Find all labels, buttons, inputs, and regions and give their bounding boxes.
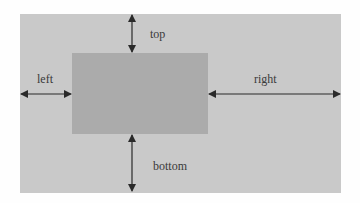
bottom-label: bottom — [153, 160, 187, 172]
left-label: left — [37, 73, 53, 85]
right-label: right — [254, 73, 277, 85]
top-label: top — [150, 28, 165, 40]
